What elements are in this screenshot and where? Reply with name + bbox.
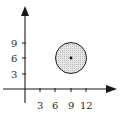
y-tick-label-3: 3 [11, 69, 17, 80]
x-tick-label-9: 9 [68, 100, 74, 111]
center-point [70, 57, 73, 60]
y-axis-arrow-icon [21, 6, 29, 16]
x-tick-label-3: 3 [37, 100, 43, 111]
y-tick-label-6: 6 [11, 53, 17, 64]
x-axis-arrow-icon [106, 85, 117, 93]
x-axis: 3 6 9 12 [3, 85, 117, 111]
y-tick-label-9: 9 [11, 38, 17, 49]
x-tick-label-12: 12 [80, 100, 93, 111]
coordinate-plane: 9 6 3 3 6 9 12 [0, 0, 122, 117]
x-tick-label-6: 6 [52, 100, 58, 111]
